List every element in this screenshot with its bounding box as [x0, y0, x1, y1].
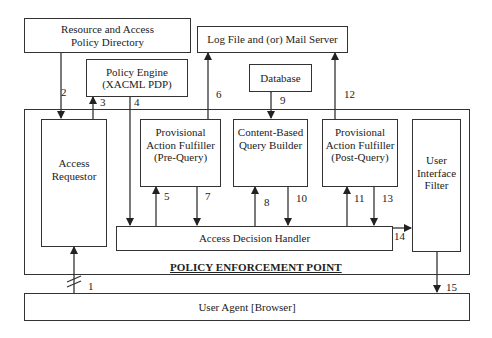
- database-box: Database: [249, 64, 312, 92]
- policy-engine-label: Policy Engine: [106, 66, 168, 79]
- post-query-fulfiller-box: Provisional Action Fulfiller (Post-Query…: [322, 119, 398, 187]
- edge-label-8: 8: [264, 197, 270, 208]
- database-label: Database: [260, 72, 300, 85]
- access-requestor-box: Access Requestor: [41, 119, 107, 247]
- edge-label-3: 3: [100, 97, 106, 108]
- resource-policy-directory-label: Resource and Access Policy Directory: [47, 23, 168, 48]
- edge-label-11: 11: [354, 193, 365, 204]
- content-query-builder-label: Content-Based Query Builder: [236, 126, 305, 151]
- edge-label-6: 6: [216, 89, 222, 100]
- policy-engine-box: Policy Engine (XACML PDP): [86, 59, 188, 97]
- post-query-fulfiller-label: Provisional Action Fulfiller (Post-Query…: [325, 126, 395, 164]
- pre-query-fulfiller-label: Provisional Action Fulfiller (Pre-Query): [145, 126, 216, 164]
- content-query-builder-box: Content-Based Query Builder: [233, 119, 308, 187]
- ui-filter-box: User Interface Filter: [412, 119, 461, 252]
- edge-label-2: 2: [61, 87, 67, 98]
- pep-title: POLICY ENFORCEMENT POINT: [170, 261, 342, 273]
- user-agent-box: User Agent [Browser]: [24, 293, 470, 321]
- log-mail-server-label: Log File and (or) Mail Server: [207, 33, 337, 46]
- edge-label-7: 7: [205, 191, 211, 202]
- edge-label-15: 15: [446, 282, 457, 293]
- edge-label-5: 5: [164, 191, 170, 202]
- user-agent-label: User Agent [Browser]: [198, 301, 295, 314]
- edge-label-14: 14: [394, 231, 405, 242]
- edge-label-10: 10: [296, 193, 307, 204]
- access-requestor-label: Access Requestor: [48, 157, 100, 182]
- log-mail-server-box: Log File and (or) Mail Server: [197, 26, 348, 53]
- edge-label-12: 12: [344, 89, 355, 100]
- edge-label-9: 9: [280, 95, 286, 106]
- edge-label-13: 13: [382, 193, 393, 204]
- edge-label-1: 1: [88, 281, 94, 292]
- access-decision-handler-label: Access Decision Handler: [199, 232, 310, 245]
- policy-engine-sublabel: (XACML PDP): [102, 78, 172, 91]
- pre-query-fulfiller-box: Provisional Action Fulfiller (Pre-Query): [140, 119, 221, 187]
- ui-filter-label: User Interface Filter: [413, 154, 460, 192]
- access-decision-handler-box: Access Decision Handler: [116, 226, 393, 251]
- edge-label-4: 4: [134, 97, 140, 108]
- resource-policy-directory-box: Resource and Access Policy Directory: [24, 18, 191, 53]
